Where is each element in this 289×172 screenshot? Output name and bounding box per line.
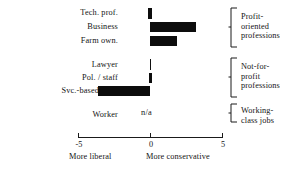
category-label-tech-prof: Tech. prof.	[80, 8, 118, 17]
x-axis-tick-zero	[150, 133, 151, 138]
bar-farm-own	[150, 36, 177, 46]
group-label-profit-oriented-line3: professions	[241, 31, 280, 41]
bracket-working-class	[231, 104, 237, 122]
x-axis-ticklabel-zero: 0	[145, 140, 157, 149]
x-axis-tick-plus5	[222, 133, 223, 138]
x-axis-caption-left: More liberal	[69, 152, 111, 161]
category-label-business: Business	[87, 22, 118, 31]
x-axis-tick-minus5	[78, 133, 79, 138]
group-label-working-class: Working- class jobs	[241, 106, 274, 125]
group-label-not-for-profit-line3: professions	[241, 81, 280, 91]
worker-na-value: n/a	[141, 108, 152, 117]
group-label-profit-oriented-line2: oriented	[241, 22, 280, 32]
bar-business	[150, 22, 196, 32]
group-label-not-for-profit: Not-for- profit professions	[241, 62, 280, 91]
group-label-not-for-profit-line2: profit	[241, 72, 280, 82]
category-label-pol-staff: Pol. / staff	[82, 73, 118, 82]
bar-tech-prof	[148, 8, 152, 19]
category-label-worker: Worker	[92, 110, 118, 119]
category-label-farm-own: Farm own.	[81, 36, 118, 45]
group-label-working-class-line2: class jobs	[241, 116, 274, 126]
bracket-profit-oriented	[231, 8, 237, 47]
bar-pol-staff	[149, 73, 153, 83]
group-label-not-for-profit-line1: Not-for-	[241, 62, 280, 72]
x-axis-ticklabel-plus5: 5	[217, 140, 229, 149]
x-axis-caption-right: More conservative	[146, 152, 210, 161]
chart-figure: Tech. prof. Business Farm own. Lawyer Po…	[0, 0, 289, 172]
bracket-not-for-profit	[231, 58, 237, 97]
category-label-lawyer: Lawyer	[92, 60, 118, 69]
group-label-working-class-line1: Working-	[241, 106, 274, 116]
group-label-profit-oriented-line1: Profit-	[241, 12, 280, 22]
x-axis-ticklabel-minus5: -5	[73, 140, 85, 149]
bar-svc-based-prof	[98, 86, 151, 96]
group-label-profit-oriented: Profit- oriented professions	[241, 12, 280, 41]
bar-lawyer	[150, 59, 151, 70]
